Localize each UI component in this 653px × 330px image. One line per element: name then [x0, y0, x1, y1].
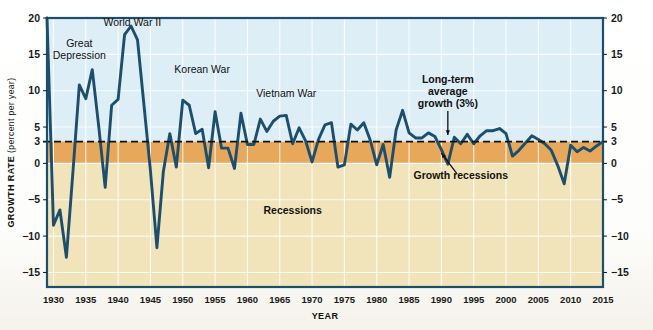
x-axis-tick-label: 1990	[431, 294, 452, 305]
chart-figure: 202015151010553300−5−5−10−10−15−15193019…	[0, 0, 653, 330]
y-axis-tick-label-right: −10	[611, 230, 629, 242]
y-axis-tick-label-left: 0	[34, 157, 40, 169]
x-axis-tick-label: 1980	[366, 294, 387, 305]
y-axis-title-units: (percent per year)	[6, 77, 16, 153]
band-growth-recession-band	[47, 142, 603, 164]
annotation-world-war-ii: World War II	[103, 16, 161, 28]
annotation-line: Korean War	[174, 63, 230, 75]
y-axis-tick-label-right: 5	[611, 121, 617, 133]
y-axis-tick-label-right: −5	[611, 193, 623, 205]
annotation-line: World War II	[103, 16, 161, 28]
y-axis-tick-label-left: 10	[28, 84, 40, 96]
annotation-line: Vietnam War	[256, 87, 317, 99]
annotation-vietnam-war: Vietnam War	[256, 87, 317, 99]
y-axis-tick-label-left: 5	[34, 121, 40, 133]
x-axis-tick-label: 1975	[334, 294, 356, 305]
y-axis-tick-label-left: −10	[22, 230, 40, 242]
band-recession-band	[47, 163, 603, 287]
x-axis-tick-label: 1950	[172, 294, 193, 305]
x-axis-tick-label: 2000	[495, 294, 516, 305]
annotation-line: Long-term	[422, 73, 474, 85]
x-axis-tick-label: 1945	[140, 294, 162, 305]
annotation-line: Growth recessions	[414, 169, 509, 181]
y-axis-tick-label-right: 3	[611, 135, 617, 147]
y-axis-tick-label-left: 20	[28, 12, 40, 24]
x-axis-tick-label: 2010	[560, 294, 581, 305]
y-axis-tick-label-right: 20	[611, 12, 623, 24]
y-axis-tick-label-right: 15	[611, 48, 623, 60]
x-axis-tick-label: 1985	[398, 294, 420, 305]
x-axis-tick-label: 1995	[463, 294, 485, 305]
annotation-recessions: Recessions	[263, 204, 322, 216]
y-axis-tick-label-right: 0	[611, 157, 617, 169]
y-axis-title-group: GROWTH RATE (percent per year)	[6, 77, 16, 227]
x-axis-tick-label: 1940	[108, 294, 129, 305]
y-axis-tick-label-left: −15	[22, 266, 40, 278]
y-axis-tick-label-right: 10	[611, 84, 623, 96]
background-bands	[47, 18, 603, 287]
y-axis-title: GROWTH RATE (percent per year)	[6, 77, 16, 227]
x-axis-title: YEAR	[312, 311, 339, 321]
x-axis-tick-label: 2005	[528, 294, 550, 305]
y-axis-tick-label-right: −15	[611, 266, 629, 278]
annotation-korean-war: Korean War	[174, 63, 230, 75]
y-axis-tick-label-left: 15	[28, 48, 40, 60]
annotation-line: Depression	[53, 49, 106, 61]
annotation-growth-recessions: Growth recessions	[414, 169, 509, 181]
x-axis-ticks: 1930193519401945195019551960196519701975…	[43, 294, 614, 305]
x-axis-tick-label: 1970	[301, 294, 322, 305]
y-axis-tick-label-left: 3	[34, 135, 40, 147]
x-axis-tick-label: 1935	[75, 294, 97, 305]
band-above-average-growth	[47, 18, 603, 142]
x-axis-tick-label: 1955	[205, 294, 227, 305]
annotation-line: average	[428, 85, 468, 97]
x-axis-tick-label: 1965	[269, 294, 291, 305]
x-axis-tick-label: 2015	[592, 294, 614, 305]
y-axis-tick-label-left: −5	[28, 193, 40, 205]
annotation-line: growth (3%)	[418, 97, 478, 109]
x-axis-tick-label: 1960	[237, 294, 258, 305]
growth-rate-chart-svg: 202015151010553300−5−5−10−10−15−15193019…	[0, 0, 653, 330]
x-axis-tick-label: 1930	[43, 294, 64, 305]
annotation-line: Great	[66, 37, 92, 49]
annotation-line: Recessions	[263, 204, 322, 216]
